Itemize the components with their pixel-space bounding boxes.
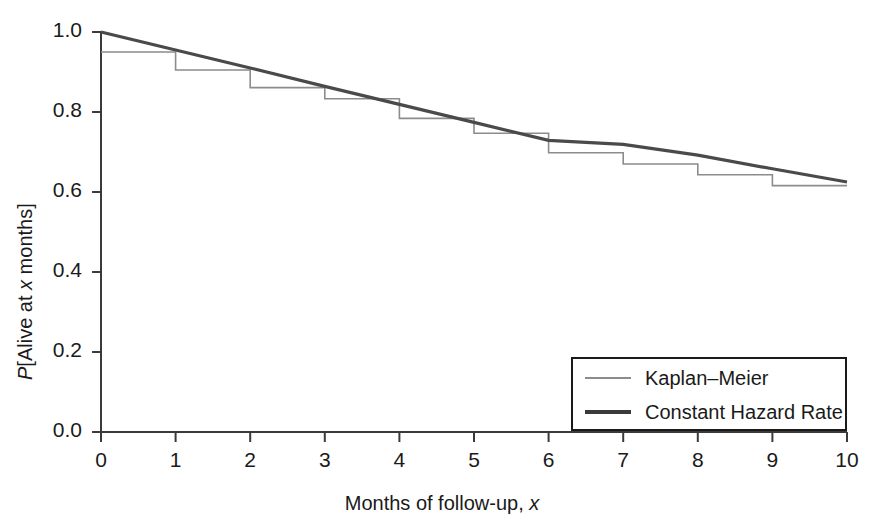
y-tick-label: 0.6	[16, 178, 82, 202]
y-tick-label: 0.8	[16, 98, 82, 122]
x-tick-label: 4	[369, 448, 429, 472]
x-tick-label: 0	[71, 448, 131, 472]
constant-hazard-rate-line	[101, 32, 847, 182]
x-tick-label: 2	[220, 448, 280, 472]
x-tick-label: 9	[742, 448, 802, 472]
legend-swatch-constant-hazard-rate	[585, 410, 631, 414]
data-series-group	[101, 32, 847, 186]
legend-label-constant-hazard-rate: Constant Hazard Rate	[645, 401, 843, 424]
x-axis-ticks	[101, 432, 847, 442]
legend-item-constant-hazard-rate: Constant Hazard Rate	[585, 397, 843, 427]
x-axis-title-text: Months of follow-up, x	[345, 492, 540, 514]
x-tick-label: 5	[444, 448, 504, 472]
x-axis-title: Months of follow-up, x	[0, 492, 884, 515]
y-axis-title-variable: x	[14, 280, 36, 290]
legend-item-kaplan-meier: Kaplan–Meier	[585, 363, 768, 393]
y-axis-title-prob-symbol: P	[14, 367, 36, 380]
y-axis-ticks	[92, 32, 101, 432]
legend: Kaplan–Meier Constant Hazard Rate	[571, 357, 847, 431]
x-tick-label: 10	[817, 448, 877, 472]
y-tick-label: 0.0	[16, 418, 82, 442]
x-tick-label: 1	[146, 448, 206, 472]
y-tick-label: 1.0	[16, 18, 82, 42]
x-tick-label: 6	[519, 448, 579, 472]
y-axis-title: P[Alive at x months]	[14, 203, 37, 380]
y-axis-title-text: P[Alive at x months]	[14, 203, 36, 380]
x-tick-label: 8	[668, 448, 728, 472]
kaplan-meier-step-curve	[101, 52, 847, 186]
x-tick-label: 3	[295, 448, 355, 472]
x-tick-label: 7	[593, 448, 653, 472]
legend-label-kaplan-meier: Kaplan–Meier	[645, 367, 768, 390]
survival-curve-figure: 0.00.20.40.60.81.0 012345678910 P[Alive …	[0, 0, 884, 530]
legend-swatch-kaplan-meier	[585, 377, 631, 379]
x-axis-title-variable: x	[529, 492, 539, 514]
